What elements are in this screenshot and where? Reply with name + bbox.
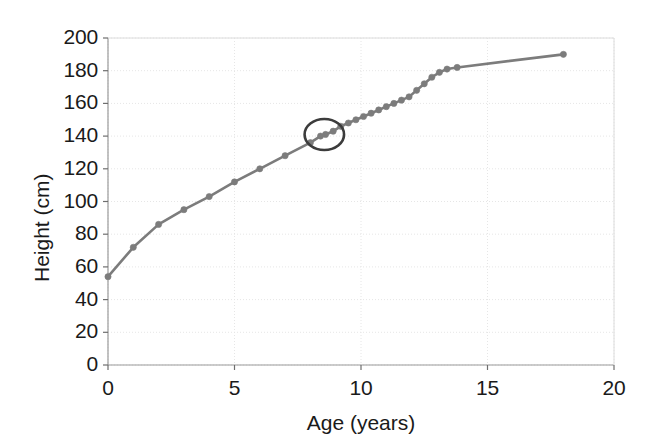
x-axis-title: Age (years) — [211, 411, 511, 435]
x-tick-label-5: 5 — [205, 376, 265, 400]
x-tick-label-15: 15 — [458, 376, 518, 400]
y-tick-label-0: 0 — [87, 352, 98, 376]
y-tick-label-200: 200 — [64, 25, 98, 49]
growth-chart-figure: 020406080100120140160180200 05101520 Age… — [0, 0, 649, 447]
y-tick-label-20: 20 — [75, 319, 98, 343]
y-tick-label-100: 100 — [64, 189, 98, 213]
y-tick-label-120: 120 — [64, 156, 98, 180]
x-tick-label-0: 0 — [78, 376, 138, 400]
data-series-line — [108, 54, 563, 276]
y-tick-label-140: 140 — [64, 123, 98, 147]
axis-tick-marks — [103, 38, 614, 370]
x-tick-label-10: 10 — [331, 376, 391, 400]
y-tick-label-60: 60 — [75, 254, 98, 278]
y-axis-title: Height (cm) — [30, 173, 54, 282]
y-tick-label-160: 160 — [64, 90, 98, 114]
y-tick-label-180: 180 — [64, 58, 98, 82]
y-tick-label-80: 80 — [75, 221, 98, 245]
gridlines-group — [108, 38, 614, 365]
y-tick-label-40: 40 — [75, 287, 98, 311]
data-point-markers — [105, 51, 567, 280]
x-tick-label-20: 20 — [584, 376, 644, 400]
